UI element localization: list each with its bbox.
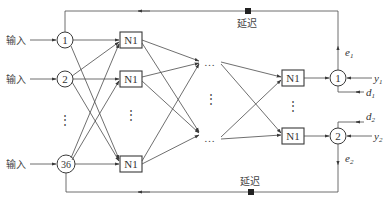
delay-block-bottom [248,189,254,195]
input-row-36: 输入 36 [6,155,75,173]
input-label-2: 输入 [6,73,26,85]
input-node-2-label: 2 [62,73,68,85]
delay-label-bottom: 延迟 [240,175,260,187]
svg-text:1: 1 [335,72,341,84]
svg-text:N1: N1 [124,73,137,85]
input-to-hidden-connections [71,40,119,164]
output-neuron-2: N1 [282,128,304,144]
input-node-36-label: 36 [61,159,71,170]
d2-line [338,122,360,128]
hidden-to-middle-connections [142,40,199,164]
d1-label: d1 [366,86,375,100]
y2-label: y2 [373,130,383,144]
svg-text:N1: N1 [286,130,299,142]
input-label-1: 输入 [6,34,26,46]
neural-network-diagram: 输入 1 输入 2 ⋮ 输入 36 N1 N1 ⋮ N1 [0,0,391,202]
middle-ellipsis-top: … [204,56,216,68]
y1-label: y1 [373,72,382,86]
output-neuron-1: N1 [282,70,304,86]
hidden-neuron-1: N1 [120,32,142,48]
delay-label-top: 延迟 [237,17,257,29]
delay-block-top [245,8,251,14]
middle-ellipsis-bottom: … [204,132,216,144]
input-row-2: 输入 2 [6,71,73,87]
d2-label: d2 [366,110,376,124]
summing-node-2: 2 y2 d2 e2 [330,110,383,166]
svg-text:2: 2 [335,130,341,142]
input-node-1-label: 1 [62,34,68,46]
hidden-neuron-n: N1 [120,156,142,172]
hidden-layer-ellipsis: ⋮ [125,108,137,122]
input-row-1: 输入 1 [6,32,73,48]
e1-label: e1 [345,46,353,60]
middle-ellipsis-vertical: ⋮ [205,92,217,106]
hidden-neuron-2: N1 [120,71,142,87]
input-ellipsis: ⋮ [59,113,71,127]
input-label-36: 输入 [6,158,26,170]
svg-text:N1: N1 [124,34,137,46]
e2-label: e2 [345,152,354,166]
output-layer-ellipsis: ⋮ [287,99,299,113]
feedback-loop-bottom: 延迟 [66,165,338,195]
summing-node-1: 1 y1 d1 e1 [330,46,382,100]
svg-text:N1: N1 [124,158,137,170]
svg-text:N1: N1 [286,72,299,84]
middle-to-output-connections [221,62,281,139]
d1-line [338,86,360,92]
